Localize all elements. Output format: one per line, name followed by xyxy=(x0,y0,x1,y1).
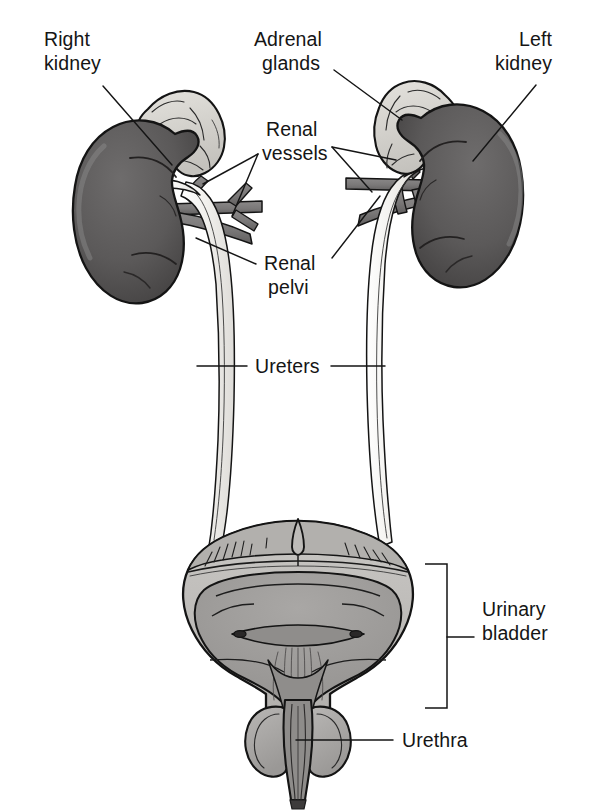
right-ureteric-orifice xyxy=(234,631,246,638)
label-renal-vessels-line1: Renal xyxy=(266,118,317,140)
left-kidney-body xyxy=(397,104,523,287)
label-renal-pelvi-line1: Renal xyxy=(264,252,315,274)
left-kidney-group xyxy=(346,81,523,547)
label-ureters: Ureters xyxy=(255,355,320,377)
figure-canvas: Right kidney Adrenal glands Left kidney … xyxy=(0,0,596,811)
urinary-system-diagram: Right kidney Adrenal glands Left kidney … xyxy=(0,0,596,811)
label-urinary-bladder-line1: Urinary xyxy=(482,598,546,620)
prostate-urethra-group xyxy=(245,700,351,809)
left-ureteric-orifice xyxy=(350,631,362,638)
label-urethra: Urethra xyxy=(402,729,468,751)
right-kidney-body xyxy=(73,120,199,303)
label-left-kidney-line1: Left xyxy=(519,28,552,50)
label-renal-pelvi-line2: pelvi xyxy=(268,276,309,298)
label-left-kidney-line2: kidney xyxy=(495,52,552,74)
label-adrenal-glands-line2: glands xyxy=(262,52,320,74)
urinary-bladder-body xyxy=(183,519,413,716)
label-right-kidney-line2: kidney xyxy=(44,52,101,74)
urethra-distal-end xyxy=(290,800,306,809)
bracket-urinary-bladder xyxy=(425,564,447,708)
label-urinary-bladder-line2: bladder xyxy=(482,622,548,644)
label-renal-vessels-line2: vessels xyxy=(262,142,328,164)
label-right-kidney-line1: Right xyxy=(44,28,91,50)
label-adrenal-glands-line1: Adrenal xyxy=(254,28,322,50)
